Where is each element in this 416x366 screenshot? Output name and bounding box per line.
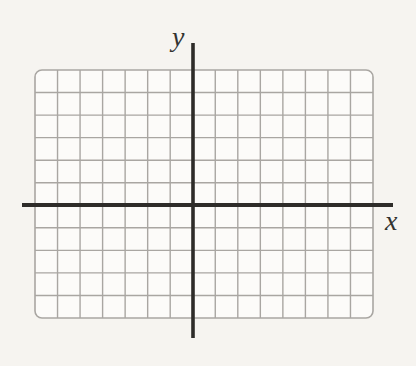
grid-lines	[35, 70, 373, 318]
coordinate-plane-svg: y x	[0, 0, 416, 366]
x-axis-label: x	[384, 205, 398, 236]
coordinate-plane-figure: y x	[0, 0, 416, 366]
grid-border	[35, 70, 373, 318]
y-axis-label: y	[169, 21, 185, 52]
